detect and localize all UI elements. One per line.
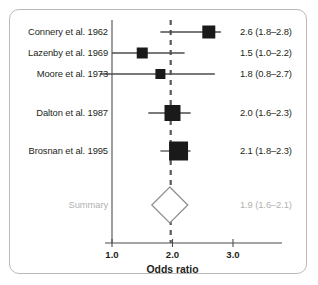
study-marker-square <box>165 105 181 121</box>
x-axis-title: Odds ratio <box>113 264 233 275</box>
study-label: Brosnan et al. 1995 <box>14 145 108 156</box>
study-label: Summary <box>14 199 108 210</box>
study-marker-square <box>202 26 215 39</box>
effect-estimate-label: 1.8 (0.8–2.7) <box>240 68 292 79</box>
study-marker-square <box>169 142 188 161</box>
study-marker-square <box>137 48 148 59</box>
effect-estimate-label: 1.5 (1.0–2.2) <box>240 47 292 58</box>
effect-estimate-label: 2.6 (1.8–2.8) <box>240 26 292 37</box>
x-axis-tick-label: 2.0 <box>153 249 193 260</box>
x-axis-tick-label: 3.0 <box>213 249 253 260</box>
effect-estimate-label: 2.0 (1.6–2.3) <box>240 107 292 118</box>
study-label: Dalton et al. 1987 <box>14 107 108 118</box>
summary-marker-diamond <box>152 187 188 223</box>
study-label: Connery et al. 1962 <box>14 26 108 37</box>
effect-estimate-label: 1.9 (1.6–2.1) <box>240 199 292 210</box>
study-label: Lazenby et al. 1969 <box>14 47 108 58</box>
x-axis-tick-label: 1.0 <box>92 249 132 260</box>
effect-estimate-label: 2.1 (1.8–2.3) <box>240 145 292 156</box>
study-marker-square <box>155 69 165 79</box>
study-label: Moore et al. 1973 <box>14 68 108 79</box>
forest-plot-figure: 1.02.03.0Connery et al. 19622.6 (1.8–2.8… <box>0 0 318 285</box>
forest-plot-canvas <box>0 0 318 285</box>
